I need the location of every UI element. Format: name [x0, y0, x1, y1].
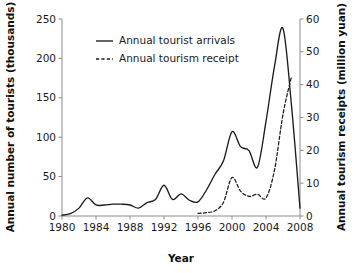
dual-axis-line-chart: 050100150200250 0102030405060 1980198419… — [0, 0, 357, 273]
legend-label-0: Annual tourist arrivals — [119, 34, 235, 46]
x-tick-label: 2000 — [219, 221, 246, 233]
y2-tick-label: 40 — [306, 78, 319, 90]
legend-label-1: Annual tourism receipt — [119, 52, 239, 64]
x-tick-label: 2008 — [287, 221, 314, 233]
y-tick-label: 0 — [49, 210, 56, 222]
chart-figure: 050100150200250 0102030405060 1980198419… — [0, 0, 357, 273]
y-axis-title: Annual number of tourists (thousands) — [4, 2, 16, 233]
y2-tick-label: 10 — [306, 177, 319, 189]
y2-tick-label: 0 — [306, 210, 313, 222]
series-line-1 — [198, 76, 292, 213]
x-tick-label: 1980 — [49, 221, 76, 233]
y-tick-label: 50 — [43, 170, 56, 182]
x-tick-label: 1992 — [151, 221, 178, 233]
y2-tick-label: 50 — [306, 45, 319, 57]
y2-tick-label: 20 — [306, 144, 319, 156]
y2-axis-title: Annual tourism receipts (million yuan) — [335, 3, 347, 231]
chart-legend: Annual tourist arrivalsAnnual tourism re… — [96, 34, 239, 64]
x-tick-label: 1984 — [83, 221, 110, 233]
chart-axes — [62, 19, 300, 216]
y-axis-ticks: 050100150200250 — [36, 13, 62, 222]
y2-tick-label: 60 — [306, 13, 319, 25]
x-tick-label: 1996 — [185, 221, 212, 233]
x-tick-label: 1988 — [117, 221, 144, 233]
y-tick-label: 250 — [36, 13, 56, 25]
y-tick-label: 100 — [36, 131, 56, 143]
y2-axis-ticks: 0102030405060 — [300, 13, 319, 222]
y2-tick-label: 30 — [306, 111, 319, 123]
x-axis-ticks: 19801984198819921996200020042008 — [49, 216, 314, 233]
x-axis-title: Year — [167, 252, 195, 264]
y-tick-label: 200 — [36, 52, 56, 64]
y-tick-label: 150 — [36, 91, 56, 103]
x-tick-label: 2004 — [253, 221, 280, 233]
